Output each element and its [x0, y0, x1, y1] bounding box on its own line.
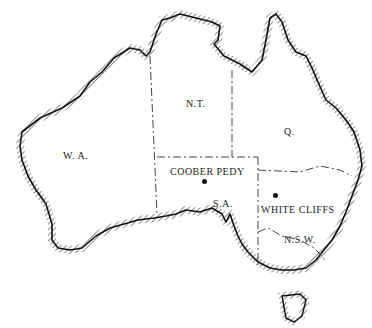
place-label-white-cliffs: WHITE CLIFFS: [261, 204, 335, 215]
place-dot-coober-pedy: [202, 179, 207, 184]
coastline: [20, 14, 362, 270]
place-dot-white-cliffs: [273, 193, 278, 198]
australia-map: [0, 0, 372, 328]
region-label-q: Q.: [284, 126, 295, 137]
region-label-wa: W. A.: [63, 150, 88, 161]
place-label-coober-pedy: COOBER PEDY: [170, 166, 245, 177]
border-wa: [150, 56, 157, 214]
region-label-nt: N.T.: [186, 98, 206, 109]
region-label-sa: S.A.: [213, 198, 233, 209]
border-q-nsw: [258, 166, 352, 176]
region-label-nsw: N.S.W.: [284, 234, 316, 245]
tasmania-island: [282, 294, 306, 322]
